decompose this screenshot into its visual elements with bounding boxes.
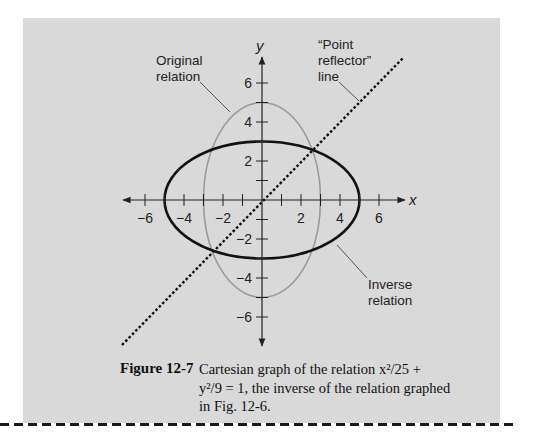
figure-caption: Cartesian graph of the relation x²/25 + … <box>199 360 499 416</box>
x-tick-label: −2 <box>215 210 231 226</box>
label-line: line <box>318 69 371 85</box>
label-line: relation <box>156 69 203 85</box>
label-line: “Point <box>318 37 371 53</box>
x-tick-label: 2 <box>297 210 305 226</box>
caption-line: y²/9 = 1, the inverse of the relation gr… <box>199 379 499 398</box>
x-tick-label: 4 <box>336 210 344 226</box>
x-tick-label: −6 <box>137 210 153 226</box>
original-relation-label: Original relation <box>156 53 203 85</box>
y-tick-label: −2 <box>236 231 252 247</box>
y-tick-label: 2 <box>244 153 252 169</box>
label-line: relation <box>368 293 412 309</box>
inverse-relation-label: Inverse relation <box>368 277 412 309</box>
y-axis-label: y <box>255 37 265 54</box>
x-tick-label: 6 <box>375 210 383 226</box>
label-line: Original <box>156 53 203 69</box>
dashed-rule <box>0 423 518 426</box>
label-line: reflector” <box>318 53 371 69</box>
x-tick-label: −4 <box>176 210 192 226</box>
y-tick-label: 6 <box>244 75 252 91</box>
y-tick-label: −6 <box>236 309 252 325</box>
label-line: Inverse <box>368 277 412 293</box>
reflector-line-label: “Point reflector” line <box>318 37 371 85</box>
inverse-relation-leader <box>337 245 367 278</box>
y-tick-label: −4 <box>236 270 252 286</box>
figure-number: Figure 12-7 <box>120 360 193 377</box>
y-tick-label: 4 <box>244 114 252 130</box>
original-relation-leader <box>200 82 230 112</box>
caption-line: Cartesian graph of the relation x²/25 + <box>199 360 499 379</box>
caption-line: in Fig. 12-6. <box>199 397 499 416</box>
x-axis-label: x <box>408 191 417 208</box>
